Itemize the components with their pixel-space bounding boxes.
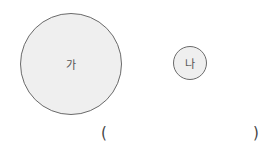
- large-circle-ga: 가: [20, 13, 122, 115]
- circle-label-na: 나: [185, 55, 195, 71]
- circle-label-ga: 가: [66, 56, 76, 72]
- small-circle-na: 나: [173, 46, 207, 80]
- answer-blank-open-paren: (: [101, 124, 107, 142]
- answer-blank-close-paren: ): [253, 124, 259, 142]
